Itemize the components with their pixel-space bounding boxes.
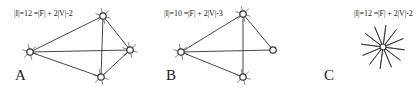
vertex-node — [240, 11, 246, 17]
graph-edge — [101, 16, 103, 77]
graph-edge — [103, 16, 130, 50]
vertex-node — [27, 49, 33, 55]
vertex-node — [98, 74, 104, 80]
vertex-node — [100, 13, 106, 19]
panel-b-label: B — [166, 67, 176, 84]
graph-edge — [30, 52, 101, 77]
graph-edge — [30, 16, 103, 52]
vertex-node — [240, 74, 246, 80]
graph-edge — [181, 50, 273, 52]
panel-a-label: A — [15, 67, 26, 84]
graph-edge — [181, 52, 243, 77]
panel-b-formula: |I|=10 =|F| + 2|V|-3 — [164, 9, 223, 18]
vertex-node — [270, 47, 276, 53]
panel-c-star — [361, 25, 405, 69]
graph-edge — [30, 50, 130, 52]
panel-c-formula: |I|=12 =|F| + 2|V|-2 — [354, 9, 413, 18]
vertex-node — [127, 47, 133, 53]
panel-c-label: C — [324, 67, 334, 84]
panel-a-formula: |I|=12 =|F| + 2|V|-2 — [14, 9, 73, 18]
panel-a-graph — [22, 8, 137, 85]
graph-edge — [243, 14, 273, 50]
graph-edge — [181, 14, 243, 52]
star-center-vertex — [380, 44, 386, 50]
vertex-node — [178, 49, 184, 55]
